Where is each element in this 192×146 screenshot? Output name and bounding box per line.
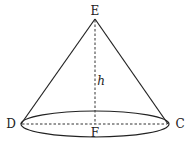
label-height-h: h [97,74,105,88]
label-D: D [6,117,16,131]
slant-edge-ED [21,19,95,124]
label-F: F [91,126,99,140]
cone-diagram: E D C F h [0,0,192,146]
slant-edge-EC [95,19,168,124]
label-E: E [91,4,100,18]
label-C: C [175,117,184,131]
